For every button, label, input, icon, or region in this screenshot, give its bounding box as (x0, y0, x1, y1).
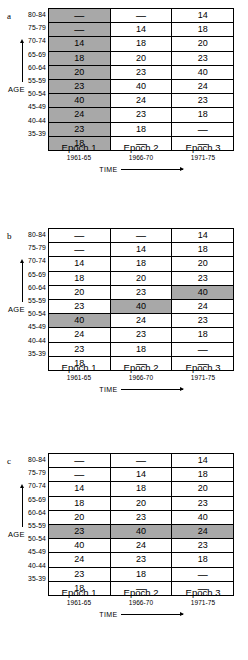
grid-cell: 23 (172, 314, 234, 328)
age-row-label: 40-44 (18, 114, 46, 127)
time-axis-label: TIME (99, 386, 117, 393)
grid-cell: 14 (110, 243, 172, 257)
epoch-footer: Epoch 21966-70 (110, 587, 172, 607)
epoch-footer: Epoch 11961-65 (48, 587, 110, 607)
epoch-years: 1961-65 (48, 598, 110, 607)
panel-a: aAGE80-8475-7970-7465-6960-6455-5950-544… (0, 0, 248, 220)
table-row: 234024 (49, 299, 234, 313)
age-row-label: 80-84 (18, 228, 46, 241)
age-row-label: 50-54 (18, 87, 46, 100)
table-row: —1418 (49, 243, 234, 257)
epoch-footer: Epoch 11961-65 (48, 362, 110, 382)
age-row-label: 80-84 (18, 453, 46, 466)
epoch-years: 1966-70 (110, 373, 172, 382)
age-row-label: 75-79 (18, 21, 46, 34)
epoch-name: Epoch 1 (48, 587, 110, 598)
table-row: 182023 (49, 271, 234, 285)
epoch-name: Epoch 1 (48, 142, 110, 153)
grid-cell: 23 (49, 299, 111, 313)
grid-cell: — (49, 243, 111, 257)
age-row-label: 70-74 (18, 479, 46, 492)
panel-c: cAGE80-8475-7970-7465-6960-6455-5950-544… (0, 440, 248, 660)
age-row-label: 80-84 (18, 8, 46, 21)
age-row-label: 55-59 (18, 74, 46, 87)
grid-cell: 23 (110, 328, 172, 342)
epoch-footer: Epoch 31971-75 (172, 587, 234, 607)
grid-cell: 18 (172, 553, 234, 567)
time-axis-arrow-icon (121, 389, 183, 390)
grid-cell: 24 (49, 553, 111, 567)
age-row-label: 35-39 (18, 127, 46, 140)
grid-cell: 24 (49, 328, 111, 342)
grid-cell: 18 (172, 23, 234, 37)
time-axis-label: TIME (99, 166, 117, 173)
epoch-name: Epoch 3 (172, 142, 234, 153)
grid-cell: 24 (110, 314, 172, 328)
age-row-labels: 80-8475-7970-7465-6960-6455-5950-5445-49… (18, 453, 46, 585)
epoch-footer: Epoch 31971-75 (172, 142, 234, 162)
grid-cell: 18 (110, 567, 172, 581)
grid-cell: 23 (172, 51, 234, 65)
grid-cell: 23 (110, 108, 172, 122)
age-row-label: 55-59 (18, 294, 46, 307)
age-row-label: 60-64 (18, 61, 46, 74)
age-row-label: 60-64 (18, 281, 46, 294)
grid-cell: 14 (49, 482, 111, 496)
grid-cell: — (49, 454, 111, 468)
epoch-name: Epoch 1 (48, 362, 110, 373)
table-row: 242318 (49, 108, 234, 122)
table-row: 202340 (49, 65, 234, 79)
grid-cell: 18 (49, 271, 111, 285)
epoch-name: Epoch 3 (172, 587, 234, 598)
grid-cell: — (110, 454, 172, 468)
age-row-labels: 80-8475-7970-7465-6960-6455-5950-5445-49… (18, 8, 46, 140)
table-row: ——14 (49, 9, 234, 23)
age-row-label: 50-54 (18, 307, 46, 320)
table-row: —1418 (49, 468, 234, 482)
table-row: 2318— (49, 342, 234, 356)
grid-cell: 23 (110, 65, 172, 79)
grid-cell: 23 (49, 567, 111, 581)
table-row: 242318 (49, 328, 234, 342)
epoch-name: Epoch 2 (110, 362, 172, 373)
table-row: 141820 (49, 37, 234, 51)
table-row: 141820 (49, 257, 234, 271)
grid-cell: 18 (110, 257, 172, 271)
grid-cell: 23 (172, 539, 234, 553)
grid-cell: 14 (110, 468, 172, 482)
grid-cell: 24 (110, 539, 172, 553)
age-row-label: 35-39 (18, 347, 46, 360)
grid-cell: 20 (172, 257, 234, 271)
table-row: ——14 (49, 229, 234, 243)
epoch-name: Epoch 2 (110, 587, 172, 598)
grid-cell: 23 (110, 285, 172, 299)
grid-cell: 23 (172, 496, 234, 510)
table-row: 2318— (49, 122, 234, 136)
table-row: 402423 (49, 314, 234, 328)
epoch-years: 1966-70 (110, 153, 172, 162)
grid-cell: — (49, 229, 111, 243)
epoch-name: Epoch 3 (172, 362, 234, 373)
grid-cell: — (110, 9, 172, 23)
grid-cell: 40 (49, 314, 111, 328)
epoch-column-footers: Epoch 11961-65Epoch 21966-70Epoch 31971-… (48, 362, 234, 382)
age-row-label: 40-44 (18, 334, 46, 347)
grid-cell: 23 (49, 122, 111, 136)
grid-cell: — (172, 342, 234, 356)
table-row: —1418 (49, 23, 234, 37)
grid-cell: 20 (49, 65, 111, 79)
age-row-label: 60-64 (18, 506, 46, 519)
grid-cell: 20 (172, 482, 234, 496)
grid-cell: 40 (110, 524, 172, 538)
grid-cell: 18 (49, 51, 111, 65)
table-row: ——14 (49, 454, 234, 468)
grid-cell: 18 (110, 342, 172, 356)
grid-cell: 18 (172, 468, 234, 482)
grid-cell: — (172, 122, 234, 136)
age-row-label: 70-74 (18, 254, 46, 267)
epoch-footer: Epoch 31971-75 (172, 362, 234, 382)
epoch-footer: Epoch 21966-70 (110, 142, 172, 162)
grid-cell: 24 (49, 108, 111, 122)
epoch-footer: Epoch 11961-65 (48, 142, 110, 162)
grid-cell: 23 (172, 271, 234, 285)
